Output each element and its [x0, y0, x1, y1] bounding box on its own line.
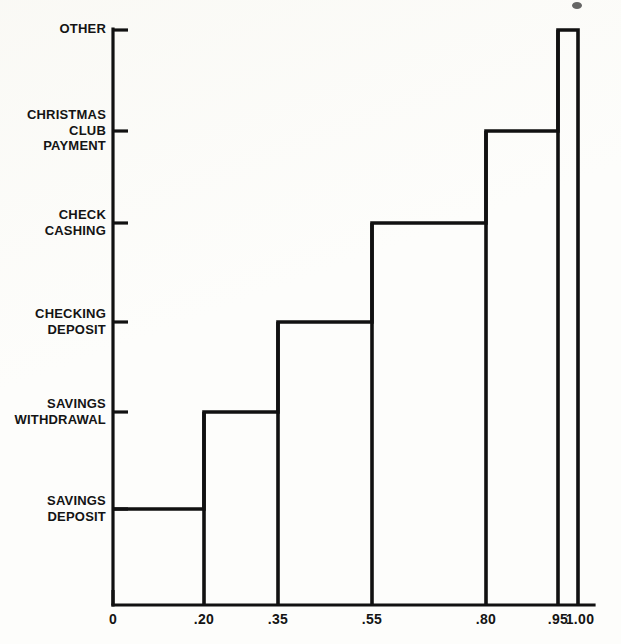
y-axis-label-christmas-club-payment: CHRISTMAS CLUB PAYMENT [10, 107, 106, 154]
x-axis-label-35: .35 [248, 611, 308, 627]
y-axis-label-checking-deposit: CHECKING DEPOSIT [10, 306, 106, 337]
x-axis-label-100: 1.00 [550, 611, 610, 627]
y-axis-label-check-cashing: CHECK CASHING [10, 207, 106, 238]
chart-container: OTHER CHRISTMAS CLUB PAYMENT CHECK CASHI… [0, 0, 621, 644]
y-axis-label-savings-deposit: SAVINGS DEPOSIT [10, 493, 106, 524]
x-axis-label-55: .55 [342, 611, 402, 627]
x-axis-label-0: 0 [83, 611, 143, 627]
scan-artifact-smudge [572, 2, 582, 9]
y-axis-label-savings-withdrawal: SAVINGS WITHDRAWAL [10, 396, 106, 427]
x-axis-label-80: .80 [456, 611, 516, 627]
y-axis-label-other: OTHER [10, 21, 106, 37]
x-axis-label-20: .20 [174, 611, 234, 627]
staircase-outline [113, 30, 578, 605]
